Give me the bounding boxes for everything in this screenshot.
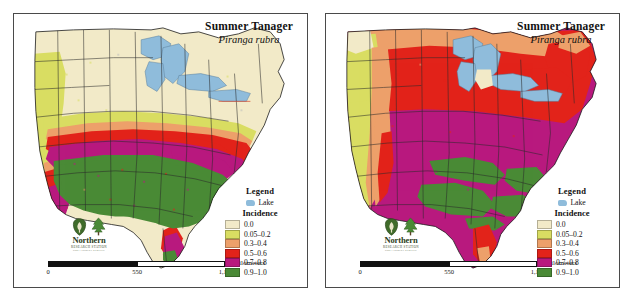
logo-marks (370, 217, 432, 236)
legend-lake-label: Lake (570, 198, 585, 207)
legend-subheading: Incidence (533, 208, 611, 218)
legend-item: 0.5–0.6 (533, 249, 611, 258)
tree-icon (90, 217, 107, 236)
legend-item: 0.3–0.4 (533, 239, 611, 248)
projected-distribution-map: Summer Tanager Piranga rubra Northern RE… (325, 13, 620, 288)
legend-swatch-1 (225, 230, 240, 239)
legend-label-3: 0.5–0.6 (556, 249, 579, 258)
legend-item: 0.5–0.6 (221, 249, 299, 258)
current-distribution-map: Summer Tanager Piranga rubra Northern RE… (13, 13, 308, 288)
legend-item: 0.9–1.0 (221, 268, 299, 277)
scale-tick-550: 550 (132, 268, 142, 275)
legend-swatch-0 (537, 220, 552, 229)
legend-lake-label: Lake (258, 198, 273, 207)
legend-item: 0.05–0.2 (533, 230, 611, 239)
legend-item: 0.9–1.0 (533, 268, 611, 277)
legend: Legend Lake Incidence 0.0 0.05–0.2 0.3–0… (533, 186, 611, 277)
legend-label-0: 0.0 (556, 220, 566, 229)
legend-heading: Legend (533, 186, 611, 196)
legend-item: 0.05–0.2 (221, 230, 299, 239)
logo-name: Northern (58, 236, 120, 245)
legend-label-5: 0.9–1.0 (556, 268, 579, 277)
legend-swatch-5 (225, 268, 240, 277)
legend-label-2: 0.3–0.4 (244, 239, 267, 248)
legend-swatch-2 (225, 239, 240, 248)
legend-label-1: 0.05–0.2 (244, 230, 271, 239)
legend-label-3: 0.5–0.6 (244, 249, 267, 258)
scale-tick-0: 0 (46, 268, 49, 275)
legend-label-1: 0.05–0.2 (556, 230, 583, 239)
legend-label-2: 0.3–0.4 (556, 239, 579, 248)
legend-swatch-0 (225, 220, 240, 229)
tree-icon (402, 217, 419, 236)
legend-swatch-4 (537, 258, 552, 267)
scale-bar-ticks: 0 550 1,100 (48, 267, 226, 277)
scale-tick-0: 0 (358, 268, 361, 275)
usfs-shield-icon (384, 218, 399, 236)
figure-canvas: Summer Tanager Piranga rubra Northern RE… (0, 0, 639, 301)
lake-swatch-icon (558, 200, 567, 206)
legend-lake-row: Lake (221, 198, 299, 207)
scale-bar-ticks: 0 550 1,100 (360, 267, 538, 277)
legend-item: 0.0 (533, 220, 611, 229)
legend-subheading: Incidence (221, 208, 299, 218)
legend-item: 0.0 (221, 220, 299, 229)
legend-label-0: 0.0 (244, 220, 254, 229)
legend-heading: Legend (221, 186, 299, 196)
legend-swatch-3 (225, 249, 240, 258)
agency-logo: Northern RESEARCH STATION USDA FOREST SE… (370, 217, 432, 253)
usfs-shield-icon (72, 218, 87, 236)
logo-subtitle-secondary: USDA FOREST SERVICE (58, 250, 120, 253)
legend-label-4: 0.7–0.8 (556, 258, 579, 267)
legend-label-5: 0.9–1.0 (244, 268, 267, 277)
logo-name: Northern (370, 236, 432, 245)
legend: Legend Lake Incidence 0.0 0.05–0.2 0.3–0… (221, 186, 299, 277)
legend-swatch-4 (225, 258, 240, 267)
agency-logo: Northern RESEARCH STATION USDA FOREST SE… (58, 217, 120, 253)
legend-item: 0.7–0.8 (221, 258, 299, 267)
legend-swatch-5 (537, 268, 552, 277)
legend-item: 0.7–0.8 (533, 258, 611, 267)
logo-marks (58, 217, 120, 236)
scale-tick-550: 550 (444, 268, 454, 275)
legend-swatch-3 (537, 249, 552, 258)
legend-swatch-2 (537, 239, 552, 248)
legend-lake-row: Lake (533, 198, 611, 207)
legend-swatch-1 (537, 230, 552, 239)
lake-swatch-icon (246, 200, 255, 206)
legend-label-4: 0.7–0.8 (244, 258, 267, 267)
legend-item: 0.3–0.4 (221, 239, 299, 248)
logo-subtitle-secondary: USDA FOREST SERVICE (370, 250, 432, 253)
